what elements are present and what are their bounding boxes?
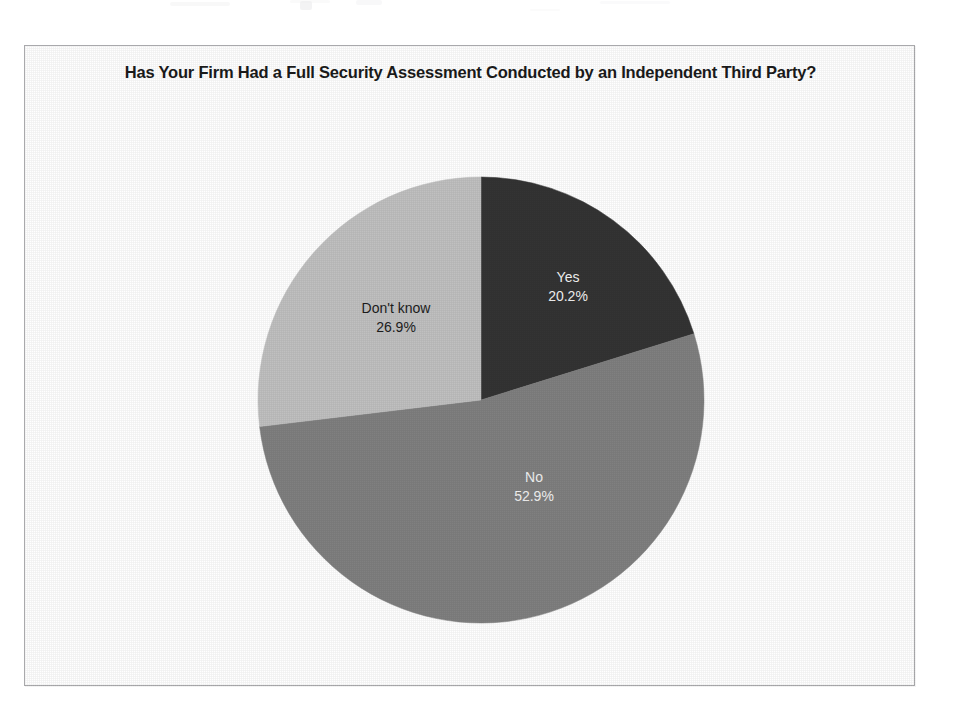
scan-smudge bbox=[170, 2, 230, 6]
scan-smudge bbox=[300, 1, 312, 10]
scan-smudge bbox=[356, 0, 382, 5]
pie-slice-dont-know[interactable] bbox=[258, 177, 481, 427]
scan-artifacts bbox=[0, 0, 959, 26]
chart-frame: Has Your Firm Had a Full Security Assess… bbox=[24, 45, 915, 686]
pie-chart bbox=[256, 175, 706, 625]
scan-smudge bbox=[600, 1, 670, 4]
scan-smudge bbox=[530, 9, 560, 11]
scan-smudge bbox=[290, 0, 330, 3]
pie-plot-area: Yes 20.2% No 52.9% Don't know 26.9% bbox=[25, 46, 916, 687]
pie-slices bbox=[258, 177, 704, 623]
